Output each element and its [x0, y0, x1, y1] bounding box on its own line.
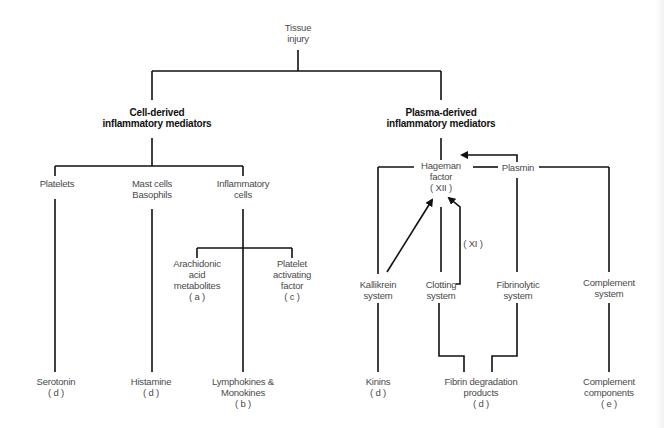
kinins-node: Kinins ( d ) [366, 376, 391, 398]
plasma-derived-header: Plasma-derived inflammatory mediators [387, 107, 496, 129]
factor-xi-label: ( XI ) [463, 238, 482, 249]
lymphokines-node: Lymphokines & Monokines ( b ) [212, 376, 274, 409]
tissue-injury-node: Tissue injury [285, 22, 311, 44]
paf-node: Platelet activating factor ( c ) [273, 258, 311, 302]
fibrin-degradation-node: Fibrin degradation products ( d ) [445, 376, 518, 409]
platelets-node: Platelets [40, 178, 75, 189]
kallikrein-node: Kallikrein system [360, 279, 397, 301]
page-edge-shadow [656, 0, 664, 428]
connector-lines [0, 0, 664, 428]
serotonin-node: Serotonin ( d ) [37, 376, 76, 398]
arachidonic-node: Arachidonic acid metabolites ( a ) [173, 258, 220, 302]
histamine-node: Histamine ( d ) [131, 376, 171, 398]
mast-cells-node: Mast cells Basophils [132, 178, 172, 200]
inflammatory-cells-node: Inflammatory cells [217, 178, 270, 200]
clotting-node: Clotting system [426, 279, 457, 301]
hageman-factor-node: Hageman factor ( XII ) [421, 160, 461, 193]
complement-components-node: Complement components ( e ) [583, 376, 635, 409]
plasmin-node: Plasmin [502, 162, 534, 173]
cell-derived-header: Cell-derived inflammatory mediators [103, 107, 212, 129]
fibrinolytic-node: Fibrinolytic system [497, 279, 540, 301]
inflammatory-mediators-diagram: Tissue injury Cell-derived inflammatory … [0, 0, 664, 428]
complement-system-node: Complement system [583, 277, 635, 299]
